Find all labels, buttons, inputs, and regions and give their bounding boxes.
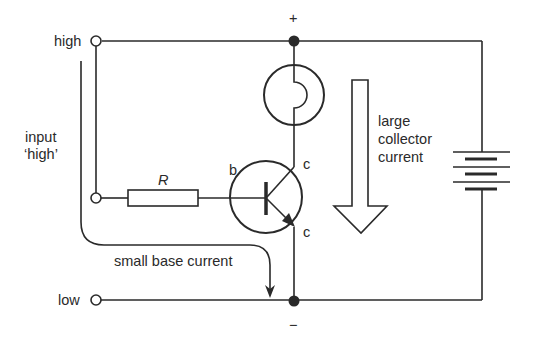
collector-label: c [303, 156, 310, 172]
npn-transistor [230, 161, 302, 233]
positive-supply-label: + [289, 10, 297, 26]
collector-current-label-line1: large [378, 113, 410, 129]
emitter-label: c [303, 224, 310, 240]
collector-current-label-line2: collector [378, 131, 432, 147]
input-high-label-line1: input [25, 129, 56, 145]
resistor-label: R [158, 172, 169, 188]
base-input-terminal [91, 193, 101, 203]
low-terminal-label: low [58, 292, 80, 308]
low-input-terminal [91, 295, 101, 305]
lamp [264, 65, 324, 125]
high-input-terminal [91, 36, 101, 46]
base-label: b [229, 162, 237, 178]
negative-supply-label: − [289, 317, 297, 333]
battery [453, 152, 510, 189]
high-terminal-label: high [54, 33, 81, 49]
resistor [128, 190, 198, 206]
transistor-circuit-diagram: + high input ‘high’ R b c c large collec… [0, 0, 542, 341]
negative-junction-dot [289, 296, 300, 307]
base-current-label: small base current [114, 253, 232, 269]
collector-current-label-line3: current [378, 149, 423, 165]
input-high-label-line2: ‘high’ [24, 146, 58, 162]
